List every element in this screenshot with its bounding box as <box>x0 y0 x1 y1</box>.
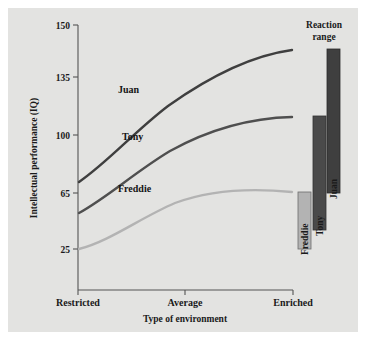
curve-label-freddie: Freddie <box>118 183 152 194</box>
reaction-bar-label-freddie: Freddie <box>300 224 310 256</box>
y-tick-label-150: 150 <box>56 21 71 31</box>
x-tick-label-restricted: Restricted <box>56 297 100 308</box>
reaction-bar-tony <box>313 116 326 230</box>
x-tick-label-enriched: Enriched <box>273 297 313 308</box>
figure-root: 150 135 100 65 25 Intellectual performan… <box>0 0 366 344</box>
reaction-bar-juan <box>327 49 340 193</box>
legend-title-line1: Reaction <box>306 20 343 30</box>
curve-label-tony: Tony <box>122 131 143 142</box>
reaction-range-chart: 150 135 100 65 25 Intellectual performan… <box>0 0 366 344</box>
x-tick-label-average: Average <box>168 297 203 308</box>
y-axis-title: Intellectual performance (IQ) <box>29 98 40 218</box>
y-tick-label-25: 25 <box>61 245 71 255</box>
y-tick-label-65: 65 <box>61 189 71 199</box>
legend-title-line2: range <box>312 32 335 42</box>
reaction-bar-label-juan: Juan <box>329 178 339 199</box>
curve-juan <box>79 50 292 182</box>
curve-freddie <box>79 190 292 249</box>
curve-label-juan: Juan <box>118 84 140 95</box>
y-tick-label-135: 135 <box>56 73 71 83</box>
x-axis-title: Type of environment <box>143 314 228 324</box>
y-tick-label-100: 100 <box>56 131 71 141</box>
reaction-bar-label-tony: Tony <box>315 216 325 236</box>
